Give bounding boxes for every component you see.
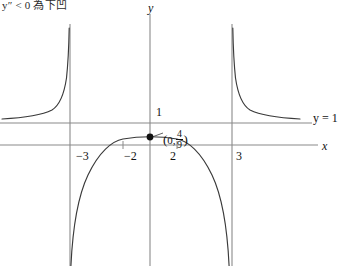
fraction-denominator: 9 — [176, 139, 183, 150]
x-axis-label: x — [322, 140, 327, 152]
curve-left-branch — [2, 28, 69, 119]
max-point-label: (0,49) — [163, 129, 188, 150]
horizontal-asymptote-label: y = 1 — [313, 112, 338, 124]
y-value-one-label: 1 — [156, 106, 162, 118]
curve-right-branch — [233, 28, 300, 119]
max-point-marker — [147, 134, 154, 141]
point-y-fraction: 49 — [176, 129, 183, 150]
fraction-numerator: 4 — [176, 129, 183, 139]
y-axis-label: y — [148, 2, 153, 14]
tick-label-neg-three: −3 — [76, 150, 89, 162]
tick-label-neg-two: −2 — [124, 150, 137, 162]
point-close-paren: ) — [184, 132, 188, 147]
figure-container: y″ < 0 為下凹 y x y = 1 1 (0,49) −3 — [0, 0, 339, 266]
tick-label-pos-two: 2 — [170, 150, 176, 162]
tick-label-pos-three: 3 — [236, 150, 242, 162]
point-x-value: 0, — [167, 134, 175, 146]
